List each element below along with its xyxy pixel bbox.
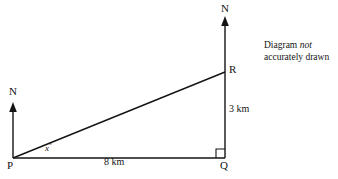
length-label-QR: 3 km <box>229 104 249 114</box>
length-label-PQ: 8 km <box>104 157 124 167</box>
north-arrowhead-icon-at-P <box>9 102 17 112</box>
vertex-label-Q: Q <box>220 160 228 171</box>
angle-label-x: x° <box>45 142 52 153</box>
north-arrowhead-icon-at-Q <box>221 16 229 26</box>
note-line1-text: Diagram <box>264 40 300 50</box>
vertex-label-R: R <box>229 64 236 75</box>
north-label-at-P: N <box>9 86 17 97</box>
right-angle-marker-icon <box>216 149 225 158</box>
vertex-label-P: P <box>7 160 13 171</box>
north-label-at-Q: N <box>221 3 229 14</box>
degree-symbol: ° <box>49 141 52 149</box>
diagram-canvas: P Q R N N 8 km 3 km x° Diagram notaccura… <box>0 0 338 179</box>
diagram-note: Diagram notaccurately drawn <box>264 40 338 63</box>
note-line2-text: accurately drawn <box>264 52 329 62</box>
note-emphasis-not: not <box>300 40 312 50</box>
